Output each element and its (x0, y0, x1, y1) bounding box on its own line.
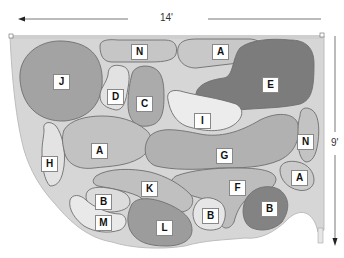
label-I: I (194, 113, 211, 129)
label-B-right: B (261, 201, 278, 217)
label-J: J (53, 74, 70, 90)
label-G: G (216, 148, 233, 164)
label-A-top: A (212, 44, 229, 60)
corner-post-top-right (320, 33, 324, 37)
label-F: F (229, 180, 246, 196)
arrow-left-icon (18, 17, 25, 22)
corner-post-bottom-right (318, 228, 323, 243)
label-K: K (141, 181, 158, 197)
width-dimension-label: 14' (160, 12, 173, 23)
label-A-right: A (291, 170, 308, 186)
label-N-right: N (297, 134, 314, 150)
label-B-center: B (202, 208, 219, 224)
label-D: D (107, 89, 124, 105)
height-dimension-label: 9' (331, 137, 338, 148)
top-edge-border (10, 35, 324, 39)
label-A-mid: A (91, 143, 108, 159)
label-N-top: N (131, 44, 148, 60)
label-C: C (136, 96, 153, 112)
label-L: L (156, 220, 173, 236)
label-H: H (41, 156, 58, 172)
label-B-left: B (95, 194, 112, 210)
label-E: E (262, 77, 279, 93)
corner-post-top-left (9, 34, 13, 38)
arrow-down-icon (333, 238, 338, 246)
label-M: M (95, 215, 112, 231)
